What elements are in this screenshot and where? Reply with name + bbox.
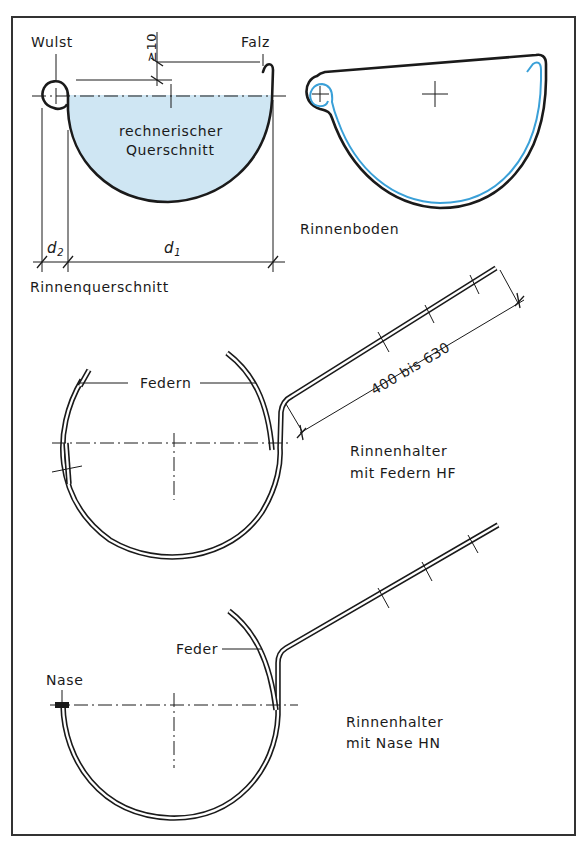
label-fold: Falz xyxy=(241,34,270,50)
label-d1: d1 xyxy=(164,240,181,258)
drawing-canvas xyxy=(0,0,588,851)
label-area-line1: rechnerischer xyxy=(119,123,223,139)
title-hanger-springs-line2: mit Federn HF xyxy=(350,465,456,481)
title-gutter-cross-section: Rinnenquerschnitt xyxy=(30,279,169,295)
hanger-springs-drawing xyxy=(52,268,524,557)
label-springs: Federn xyxy=(140,375,191,391)
title-hanger-springs-line1: Rinnenhalter xyxy=(350,443,447,459)
bead-outline xyxy=(42,81,68,108)
label-spring: Feder xyxy=(176,641,218,657)
hanger-nose-drawing xyxy=(50,525,498,818)
label-min-gap: ≥10 xyxy=(144,33,160,62)
title-gutter-end-cap: Rinnenboden xyxy=(300,221,399,237)
technical-drawing: Wulst Falz ≥10 rechnerischer Querschnitt… xyxy=(0,0,588,851)
label-d2: d2 xyxy=(47,240,64,258)
label-nose: Nase xyxy=(46,672,83,688)
label-area-line2: Querschnitt xyxy=(126,142,214,158)
gutter-end-cap-drawing xyxy=(306,55,546,208)
title-hanger-nose-line2: mit Nase HN xyxy=(346,735,440,751)
label-bead: Wulst xyxy=(31,34,73,50)
title-hanger-nose-line1: Rinnenhalter xyxy=(346,714,443,730)
